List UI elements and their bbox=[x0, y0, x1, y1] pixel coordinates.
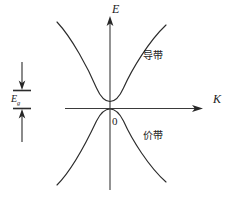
valence-band-label: 价带 bbox=[143, 131, 163, 141]
energy-axis-label: E bbox=[112, 3, 119, 15]
band-diagram-canvas bbox=[0, 0, 236, 197]
conduction-band-curve bbox=[57, 22, 166, 102]
band-gap-label: Eg bbox=[11, 94, 20, 107]
origin-label: 0 bbox=[112, 116, 118, 127]
band-diagram-figure: E K 0 导带 价带 Eg bbox=[0, 0, 236, 197]
band-gap-label-subscript: g bbox=[17, 99, 20, 106]
conduction-band-label: 导带 bbox=[143, 51, 163, 61]
wavevector-axis-label: K bbox=[213, 93, 221, 105]
wavevector-axis bbox=[65, 105, 203, 112]
energy-axis bbox=[107, 16, 114, 190]
